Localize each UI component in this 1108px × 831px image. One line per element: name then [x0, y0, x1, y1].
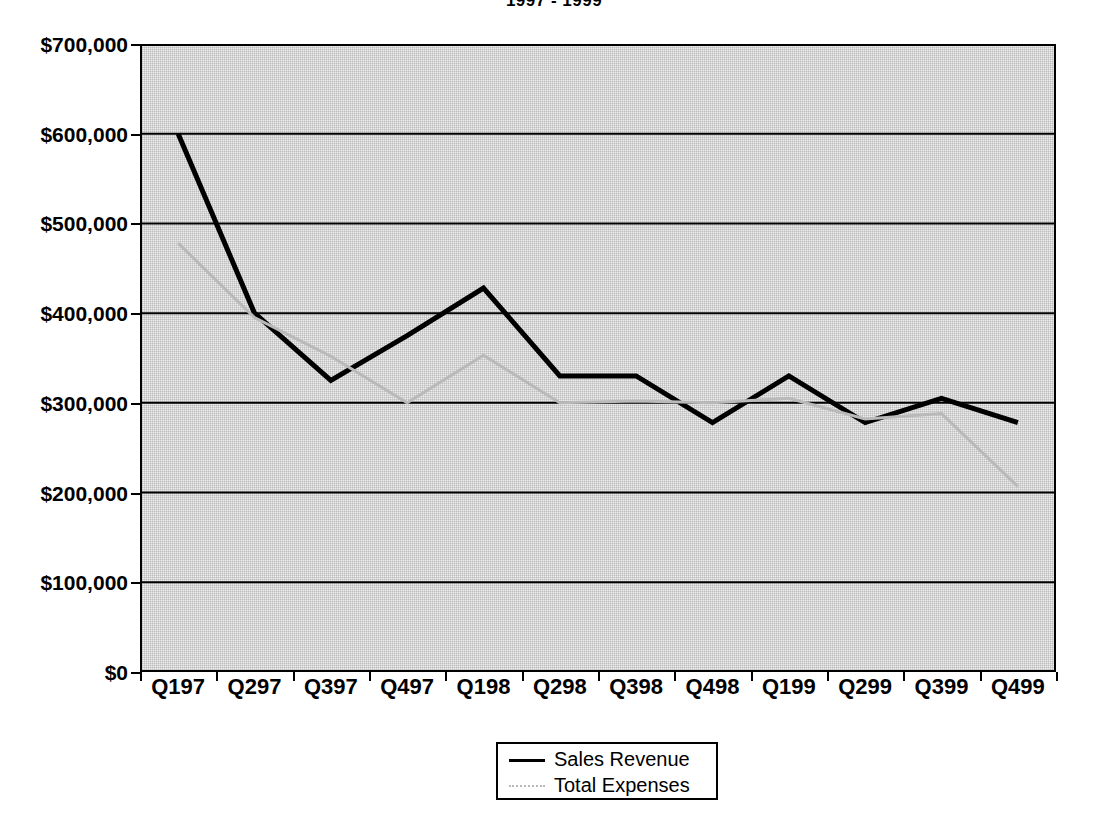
y-axis-tick-label: $700,000 [0, 34, 128, 55]
x-axis-tick-mark [674, 672, 676, 681]
y-axis-tick-label: $0 [0, 662, 128, 683]
y-axis-tick-label: $300,000 [0, 392, 128, 413]
x-axis-tick-mark [293, 672, 295, 681]
x-axis-tick-label: Q198 [457, 676, 511, 698]
y-axis-tick-mark [131, 223, 140, 225]
x-axis-tick-label: Q497 [380, 676, 434, 698]
data-series-layer [178, 134, 1018, 487]
x-axis-tick-label: Q398 [609, 676, 663, 698]
chart-container: 1997 - 1999 $0$100,000$200,000$300,000$4… [0, 0, 1108, 831]
chart-title: 1997 - 1999 [0, 0, 1108, 11]
y-axis-tick-label: $200,000 [0, 482, 128, 503]
y-axis-tick-mark [131, 403, 140, 405]
x-axis-tick-mark [827, 672, 829, 681]
legend-swatch-sales-revenue-icon [507, 752, 547, 766]
x-axis-tick-label: Q197 [151, 676, 205, 698]
legend-label-total-expenses: Total Expenses [554, 775, 690, 795]
x-axis-tick-mark [751, 672, 753, 681]
y-axis-tick-label: $600,000 [0, 123, 128, 144]
legend-label-sales-revenue: Sales Revenue [554, 749, 690, 769]
x-axis-tick-label: Q399 [915, 676, 969, 698]
chart-legend: Sales Revenue Total Expenses [496, 742, 718, 800]
x-axis-tick-mark [980, 672, 982, 681]
x-axis-tick-label: Q397 [304, 676, 358, 698]
y-axis-tick-mark [131, 134, 140, 136]
y-axis-tick-mark [131, 582, 140, 584]
x-axis-tick-label: Q499 [991, 676, 1045, 698]
x-axis-tick-label: Q498 [686, 676, 740, 698]
y-axis-tick-mark [131, 493, 140, 495]
y-axis-tick-label: $100,000 [0, 572, 128, 593]
x-axis-tick-mark [140, 672, 142, 681]
series-line-sales-revenue [178, 134, 1018, 423]
legend-swatch-total-expenses-icon [507, 778, 547, 792]
y-axis-tick-mark [131, 44, 140, 46]
y-axis-tick-mark [131, 672, 140, 674]
x-axis-tick-label: Q299 [838, 676, 892, 698]
legend-item-sales-revenue: Sales Revenue [498, 746, 716, 772]
series-line-total-expenses [178, 243, 1018, 486]
x-axis-tick-mark [1056, 672, 1058, 681]
y-axis-tick-mark [131, 313, 140, 315]
x-axis-tick-mark [445, 672, 447, 681]
x-axis-tick-label: Q298 [533, 676, 587, 698]
x-axis-tick-mark [598, 672, 600, 681]
x-axis-tick-mark [903, 672, 905, 681]
x-axis-tick-label: Q297 [228, 676, 282, 698]
y-axis-tick-label: $400,000 [0, 303, 128, 324]
y-axis-tick-label: $500,000 [0, 213, 128, 234]
gridlines [140, 134, 1056, 583]
x-axis-tick-mark [369, 672, 371, 681]
legend-item-total-expenses: Total Expenses [498, 772, 716, 798]
y-axis-labels: $0$100,000$200,000$300,000$400,000$500,0… [0, 0, 128, 831]
plot-svg [140, 44, 1056, 672]
x-axis-tick-mark [216, 672, 218, 681]
x-axis-tick-label: Q199 [762, 676, 816, 698]
x-axis-tick-mark [522, 672, 524, 681]
